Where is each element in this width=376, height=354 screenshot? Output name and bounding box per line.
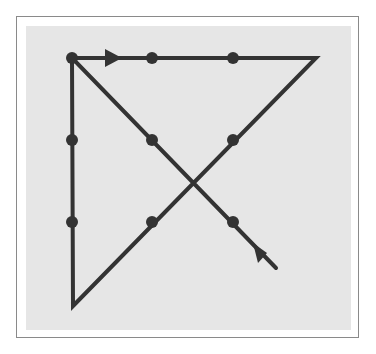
dot-r1c2 <box>146 52 158 64</box>
nine-dots-diagram <box>0 0 376 354</box>
solution-path <box>72 58 316 306</box>
end-arrow-icon <box>253 243 267 263</box>
start-arrow-icon <box>105 49 122 67</box>
dot-r1c3 <box>227 52 239 64</box>
dot-r2c2 <box>146 134 158 146</box>
dot-r3c3 <box>227 216 239 228</box>
dot-r3c1 <box>66 216 78 228</box>
dot-r1c1 <box>66 52 78 64</box>
dot-r2c1 <box>66 134 78 146</box>
dot-r2c3 <box>227 134 239 146</box>
dot-r3c2 <box>146 216 158 228</box>
